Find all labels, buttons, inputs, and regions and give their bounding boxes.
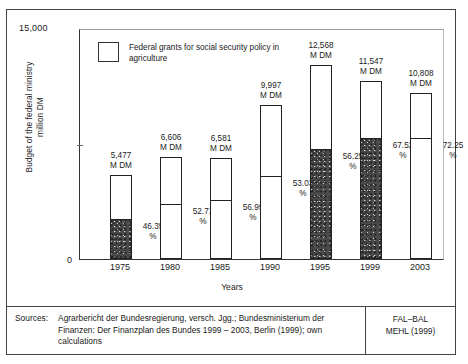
bar-1980[interactable] <box>160 157 182 259</box>
bar-value-label-1999: 11,547 M DM <box>345 57 397 77</box>
bar-1985[interactable] <box>210 158 232 259</box>
bar-segment-grants-1990 <box>261 176 281 258</box>
bar-segment-grants-1985 <box>211 200 231 258</box>
plot-frame: Federal grants for social security polic… <box>79 29 444 260</box>
x-axis-tick-2003: 2003 <box>394 262 446 272</box>
y-axis-title-line1: Budget of the federal ministry <box>24 37 35 197</box>
bar-segment-grants-1980 <box>161 204 181 258</box>
y-axis-title: Budget of the federal ministry million D… <box>24 37 46 197</box>
bar-value-label-1975: 5,477 M DM <box>95 151 147 171</box>
x-axis-tick-1975: 1975 <box>94 262 146 272</box>
y-axis-tick-zero: 0 <box>67 255 72 265</box>
chart-area: Budget of the federal ministry million D… <box>7 10 457 306</box>
bar-segment-grants-2003 <box>411 138 431 258</box>
y-axis-title-line2: million DM <box>35 37 46 197</box>
bar-value-label-2003: 10,808 M DM <box>395 69 447 89</box>
bar-1975[interactable] <box>110 175 132 259</box>
x-axis-tick-1985: 1985 <box>194 262 246 272</box>
x-axis-tick-1995: 1995 <box>294 262 346 272</box>
sources-label: Sources: <box>15 313 48 355</box>
bar-value-label-1990: 9,997 M DM <box>245 81 297 101</box>
bar-value-label-1985: 6,581 M DM <box>195 134 247 154</box>
bar-segment-grants-1995 <box>311 149 331 258</box>
bar-1999[interactable] <box>360 81 382 259</box>
x-axis-tick-1980: 1980 <box>144 262 196 272</box>
bar-1995[interactable] <box>310 65 332 259</box>
credit-line1: FAL–BAL <box>366 314 455 326</box>
bar-segment-grants-1975 <box>111 219 131 258</box>
x-axis-ticks: 1975198019851990199519992003 <box>79 262 444 278</box>
bar-1990[interactable] <box>260 105 282 259</box>
bar-segment-grants-1999 <box>361 138 381 258</box>
bar-value-label-1980: 6,606 M DM <box>145 133 197 153</box>
x-axis-tick-1990: 1990 <box>244 262 296 272</box>
figure-frame: Budget of the federal ministry million D… <box>6 9 456 355</box>
credit-cell: FAL–BAL MEHL (1999) <box>365 307 455 355</box>
bar-share-label-2003: 72.25 % <box>436 141 468 161</box>
bar-series: 5,477 M DM46.35 %6,606 M DM52.71 %6,581 … <box>80 30 443 259</box>
bar-value-label-1995: 12,568 M DM <box>295 41 347 61</box>
sources-text: Agrarbericht der Bundesregierung, versch… <box>58 313 357 355</box>
sources-row: Sources: Agrarbericht der Bundesregierun… <box>7 307 455 355</box>
x-axis-title: Years <box>7 282 457 292</box>
x-axis-tick-1999: 1999 <box>344 262 396 272</box>
credit-line2: MEHL (1999) <box>366 326 455 338</box>
y-axis-tick-max: 15,000 <box>19 23 48 33</box>
sources-cell: Sources: Agrarbericht der Bundesregierun… <box>7 307 365 355</box>
bar-2003[interactable] <box>410 93 432 259</box>
